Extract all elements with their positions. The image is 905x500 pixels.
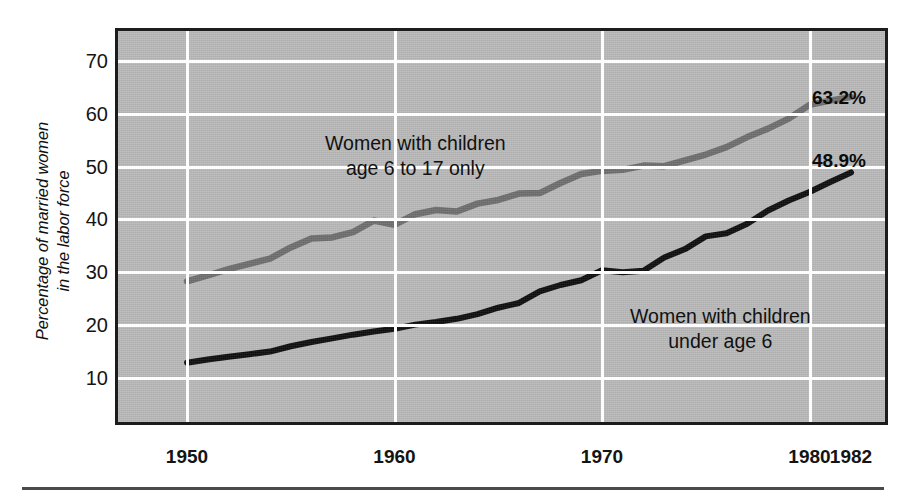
- bottom-rule: [22, 487, 884, 490]
- gridline-h-70: [118, 60, 885, 63]
- y-axis-tick-labels: 70605040302010: [56, 0, 108, 500]
- chart-root: Percentage of married women in the labor…: [0, 0, 905, 500]
- series-line-0: [187, 97, 851, 281]
- gridline-h-30: [118, 271, 885, 274]
- x-tick-1960: 1960: [373, 446, 415, 468]
- y-axis-title-line1: Percentage of married women: [33, 122, 51, 340]
- annotation-children-6-to-17-line2: age 6 to 17 only: [346, 157, 485, 179]
- gridline-v-1950: [186, 31, 189, 422]
- y-tick-50: 50: [64, 155, 108, 178]
- end-value-children-under-6: 48.9%: [812, 150, 866, 172]
- annotation-children-under-6: Women with children under age 6: [630, 304, 811, 354]
- gridline-h-60: [118, 113, 885, 116]
- x-tick-1982: 1982: [830, 446, 872, 468]
- annotation-children-6-to-17: Women with children age 6 to 17 only: [325, 131, 506, 181]
- y-tick-40: 40: [64, 208, 108, 231]
- annotation-children-6-to-17-line1: Women with children: [325, 132, 506, 154]
- y-tick-60: 60: [64, 102, 108, 125]
- gridline-v-1970: [601, 31, 604, 422]
- annotation-children-under-6-line1: Women with children: [630, 305, 811, 327]
- x-tick-1950: 1950: [166, 446, 208, 468]
- gridline-v-1960: [394, 31, 397, 422]
- annotation-children-under-6-line2: under age 6: [668, 330, 772, 352]
- y-tick-20: 20: [64, 314, 108, 337]
- x-tick-1980: 1980: [788, 446, 830, 468]
- x-tick-1970: 1970: [581, 446, 623, 468]
- y-tick-70: 70: [64, 50, 108, 73]
- plot-area: Women with children age 6 to 17 only Wom…: [115, 28, 888, 425]
- gridline-h-40: [118, 218, 885, 221]
- y-tick-10: 10: [64, 366, 108, 389]
- series-lines: [118, 31, 885, 422]
- end-value-children-6-to-17: 63.2%: [812, 87, 866, 109]
- y-tick-30: 30: [64, 261, 108, 284]
- gridline-h-10: [118, 377, 885, 380]
